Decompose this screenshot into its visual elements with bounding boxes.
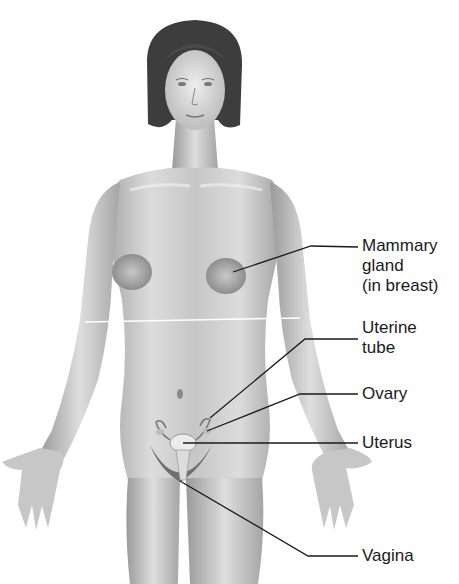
label-uterus: Uterus bbox=[362, 433, 412, 453]
right-leg bbox=[186, 478, 263, 584]
label-mammary-gland: Mammary gland (in breast) bbox=[362, 236, 439, 296]
left-leg bbox=[126, 478, 180, 584]
left-hand bbox=[2, 448, 64, 530]
label-uterine-tube: Uterine tube bbox=[362, 318, 417, 358]
right-hand bbox=[312, 448, 372, 530]
right-arm bbox=[270, 182, 350, 462]
torso bbox=[107, 168, 284, 481]
right-breast bbox=[206, 258, 246, 294]
label-vagina: Vagina bbox=[362, 546, 414, 566]
label-ovary: Ovary bbox=[362, 384, 407, 404]
anatomy-diagram: Mammary gland (in breast) Uterine tube O… bbox=[0, 0, 459, 584]
left-breast bbox=[112, 254, 152, 290]
left-ovary-organ bbox=[156, 429, 164, 435]
